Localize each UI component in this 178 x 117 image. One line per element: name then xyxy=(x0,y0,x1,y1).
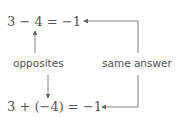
connector-arrows xyxy=(0,0,178,117)
bottom-answer-arrow-icon xyxy=(102,75,138,107)
top-answer-arrow-icon xyxy=(84,21,138,53)
